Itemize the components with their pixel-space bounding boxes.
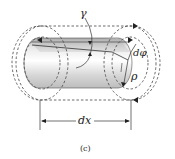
arrowhead-top-right	[133, 23, 138, 29]
gamma-label: γ	[80, 7, 87, 20]
dx-arrow-left	[41, 119, 46, 123]
torsion-diagram: γ dφ ρ dx (c)	[0, 0, 175, 159]
dphi-label: dφ	[133, 47, 146, 58]
dx-label: dx	[78, 114, 92, 127]
dx-arrow-right	[125, 119, 130, 123]
rho-label: ρ	[130, 70, 138, 83]
arrowhead-bottom-right	[133, 97, 138, 103]
figure-caption: (c)	[80, 144, 91, 153]
arrowhead-right-inner	[128, 37, 133, 43]
